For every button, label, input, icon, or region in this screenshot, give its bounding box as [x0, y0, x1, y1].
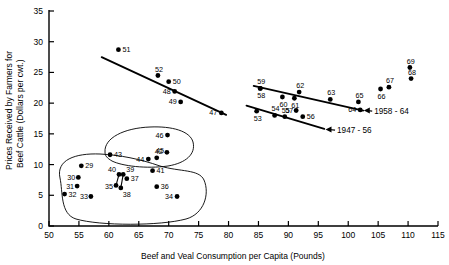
- x-tick-label: 105: [371, 230, 385, 240]
- data-point-label: 34: [165, 192, 173, 201]
- data-point-marker: [164, 150, 169, 155]
- data-point: 32: [62, 190, 76, 199]
- data-point-marker: [172, 89, 177, 94]
- y-tick-label: 30: [34, 37, 44, 47]
- data-point: 34: [165, 192, 179, 201]
- data-point: 61: [291, 96, 299, 110]
- data-point-marker: [387, 85, 392, 90]
- data-point: 51: [116, 45, 130, 54]
- data-point: 56: [300, 112, 314, 121]
- annotation-label: 1958 - 64: [374, 107, 409, 116]
- data-point-marker: [150, 168, 155, 173]
- y-axis-title-line2: Beef Cattle (Dollars per cwt.): [15, 59, 25, 168]
- data-point-marker: [76, 175, 81, 180]
- data-point-label: 39: [126, 165, 134, 174]
- data-point-label: 45: [156, 146, 164, 155]
- data-point: 66: [378, 87, 386, 101]
- x-tick-label: 85: [254, 230, 264, 240]
- x-axis-title: Beef and Veal Consumption per Capita (Po…: [141, 251, 325, 261]
- data-point-label: 44: [136, 155, 144, 164]
- data-point-marker: [175, 194, 180, 199]
- data-point: 67: [386, 76, 394, 89]
- data-point: 45: [156, 146, 169, 155]
- data-point-marker: [166, 79, 171, 84]
- data-point-label: 40: [108, 165, 116, 174]
- x-tick-label: 100: [341, 230, 355, 240]
- data-point-marker: [156, 73, 161, 78]
- data-point-marker: [108, 152, 113, 157]
- data-point-label: 59: [257, 77, 265, 86]
- data-point-marker: [409, 76, 414, 81]
- data-point-label: 51: [122, 45, 130, 54]
- data-point: 48: [163, 87, 177, 96]
- data-point-label: 41: [157, 166, 165, 175]
- axes: 5055606570758085909510010511011505101520…: [34, 6, 446, 240]
- data-point-label: 56: [307, 112, 315, 121]
- data-point-marker: [75, 184, 80, 189]
- x-tick-label: 60: [104, 230, 114, 240]
- data-point-label: 46: [155, 131, 163, 140]
- data-point: 49: [169, 97, 183, 106]
- data-point-label: 47: [209, 108, 217, 117]
- x-tick-label: 55: [74, 230, 84, 240]
- data-point-label: 33: [80, 192, 88, 201]
- data-point-marker: [272, 113, 277, 118]
- data-point: 36: [154, 182, 168, 191]
- annotation-arrowhead: [364, 108, 370, 114]
- data-point: 63: [327, 88, 335, 101]
- y-tick-label: 15: [34, 129, 44, 139]
- data-point-marker: [297, 90, 302, 95]
- data-point-marker: [356, 100, 361, 105]
- data-point-label: 52: [155, 65, 163, 74]
- y-tick-label: 35: [34, 6, 44, 16]
- data-point-label: 69: [407, 57, 415, 66]
- data-point-label: 61: [291, 101, 299, 110]
- data-point: 60: [279, 95, 287, 109]
- data-point-marker: [88, 194, 93, 199]
- data-point-marker: [358, 108, 363, 113]
- data-point-marker: [154, 184, 159, 189]
- data-point-marker: [124, 176, 129, 181]
- data-point: 33: [80, 192, 93, 201]
- data-point-label: 64: [348, 105, 356, 114]
- y-tick-label: 10: [34, 160, 44, 170]
- y-axis-title: Prices Received by Farmers for Beef Catt…: [4, 51, 25, 170]
- data-point-marker: [178, 100, 183, 105]
- y-tick-label: 25: [34, 67, 44, 77]
- data-point: 38: [118, 186, 130, 199]
- x-tick-label: 90: [284, 230, 294, 240]
- data-point: 64: [348, 105, 362, 114]
- data-point: 29: [79, 161, 93, 170]
- x-tick-label: 110: [401, 230, 415, 240]
- data-point-marker: [62, 192, 67, 197]
- x-tick-label: 50: [44, 230, 54, 240]
- y-tick-label: 20: [34, 98, 44, 108]
- trend-line-1947-52-upper: [102, 57, 226, 115]
- annotations: 1958 - 641947 - 56: [325, 107, 409, 135]
- trend-lines: [102, 57, 364, 129]
- data-point-marker: [154, 155, 159, 160]
- data-point: 46: [155, 131, 169, 140]
- data-point-label: 43: [114, 150, 122, 159]
- data-point: 52: [155, 65, 163, 78]
- data-point-marker: [407, 65, 412, 70]
- data-point-label: 53: [254, 114, 262, 123]
- data-point-marker: [116, 47, 121, 52]
- data-point: 43: [108, 150, 122, 159]
- annotation-label: 1947 - 56: [337, 126, 372, 135]
- y-axis-title-line1: Prices Received by Farmers for: [4, 51, 14, 170]
- chart-svg: Prices Received by Farmers for Beef Catt…: [0, 0, 449, 265]
- x-tick-label: 70: [164, 230, 174, 240]
- data-point: 37: [124, 174, 138, 183]
- data-point-label: 60: [279, 100, 287, 109]
- data-point: 50: [166, 77, 180, 86]
- x-tick-label: 65: [134, 230, 144, 240]
- data-point-label: 48: [163, 87, 171, 96]
- data-point-marker: [328, 97, 333, 102]
- x-tick-label: 95: [314, 230, 324, 240]
- data-point-label: 37: [131, 174, 139, 183]
- axis-lines: [49, 10, 438, 226]
- data-point: 62: [296, 81, 304, 94]
- data-point-label: 65: [355, 91, 363, 100]
- data-point-label: 36: [161, 182, 169, 191]
